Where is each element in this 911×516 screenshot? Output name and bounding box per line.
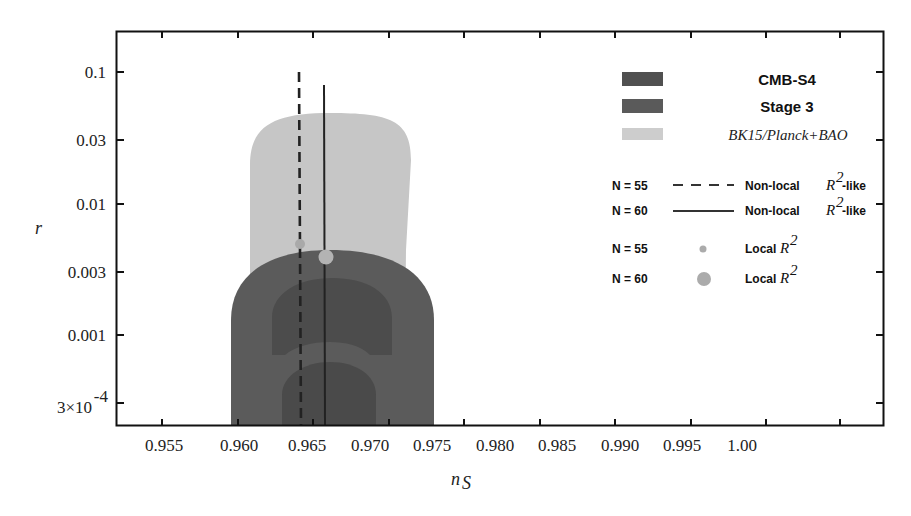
x-tick-label: 0.995 [663,436,701,455]
point-local-n55 [295,239,305,249]
x-tick-labels: 0.955 0.960 0.965 0.970 0.975 0.980 0.98… [145,436,757,455]
x-tick-label: 0.985 [538,436,576,455]
legend-line-n55-label: Non-local [745,179,800,193]
x-axis-label-subscript: S [462,473,471,493]
x-tick-label: 0.955 [145,436,183,455]
legend-line-n60-label: Non-local [745,204,800,218]
legend-point-n55-n: N = 55 [612,242,648,256]
legend-line-n55-n: N = 55 [612,179,648,193]
legend: CMB-S4 Stage 3 BK15/Planck+BAO N = 55 No… [612,71,866,286]
legend-line-n60-r: R [825,202,835,218]
y-tick-label: 0.001 [68,326,106,345]
x-tick-label: 1.00 [727,436,757,455]
legend-point-n60-n: N = 60 [612,272,648,286]
x-axis-label: n [451,469,460,489]
y-tick-label: 0.03 [76,131,106,150]
x-tick-label: 0.990 [601,436,639,455]
chart: 0.955 0.960 0.965 0.970 0.975 0.980 0.98… [0,0,911,516]
legend-label-cmb-s4: CMB-S4 [758,71,816,88]
x-tick-label: 0.960 [220,436,258,455]
region-cmb-s4-core [282,362,376,426]
legend-point-n55-r: R [779,240,789,256]
legend-swatch-cmb-s4 [622,72,663,86]
y-tick-labels: 0.1 0.03 0.01 0.003 0.001 3×10 -4 [57,63,109,417]
y-tick-label: 3×10 [57,398,92,417]
legend-swatch-bk15 [622,128,663,140]
legend-point-n60-marker [697,272,711,286]
y-tick-label: 0.003 [68,263,106,282]
x-tick-label: 0.975 [413,436,451,455]
y-tick-label: 0.1 [85,63,106,82]
legend-line-n55-r: R [825,177,835,193]
x-tick-label: 0.965 [288,436,326,455]
x-tick-label: 0.970 [351,436,389,455]
legend-line-n60-n: N = 60 [612,204,648,218]
legend-point-n55-sup: 2 [790,232,798,248]
point-local-n60 [319,250,334,265]
legend-line-n60-suffix: -like [842,204,866,218]
plot-area [231,72,434,426]
y-tick-label-exponent: -4 [94,387,109,406]
legend-point-n60-sup: 2 [790,262,798,278]
legend-line-n55-suffix: -like [842,179,866,193]
legend-point-n60-label: Local [745,272,776,286]
legend-point-n55-marker [700,246,707,253]
legend-point-n60-r: R [779,270,789,286]
legend-label-bk15: BK15/Planck+BAO [728,127,847,143]
legend-label-stage-3: Stage 3 [760,98,813,115]
x-tick-label: 0.980 [476,436,514,455]
legend-swatch-stage-3 [622,99,663,113]
legend-point-n55-label: Local [745,242,776,256]
y-tick-label: 0.01 [76,195,106,214]
y-axis-label: r [35,218,43,238]
